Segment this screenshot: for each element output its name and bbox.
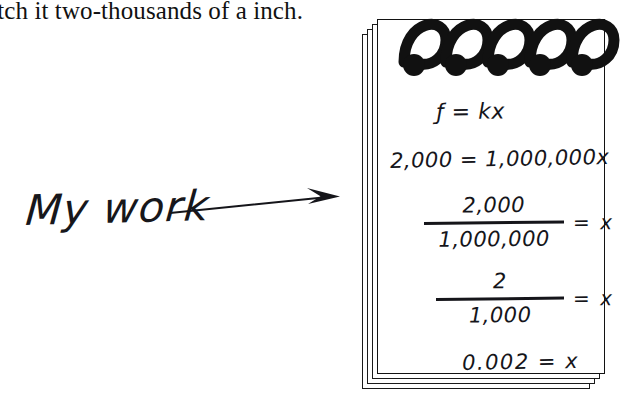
notepad: ƒ = kx 2,000 = 1,000,000x 2,000 1,000,00…: [358, 0, 626, 399]
fraction-bar: [436, 297, 564, 301]
worksheet-page: etch it two-thousands of a inch. My work…: [0, 0, 626, 399]
equation-substitute: 2,000 = 1,000,000x: [390, 145, 610, 173]
fraction-rhs: = x: [573, 208, 614, 234]
fraction-divide-2: 2 1,000 = x: [436, 267, 615, 329]
fraction-numerator: 2,000: [462, 192, 525, 219]
equation-formula: ƒ = kx: [436, 98, 505, 124]
fraction-rhs: = x: [573, 284, 614, 310]
equation-result: 0.002 = x: [462, 349, 579, 375]
arrow-right-icon: [168, 180, 353, 225]
fraction-divide-1: 2,000 1,000,000 = x: [424, 191, 615, 253]
fraction-numerator: 2: [493, 268, 507, 294]
fraction-denominator: 1,000,000: [438, 225, 550, 252]
fraction-denominator: 1,000: [469, 302, 532, 329]
pad-front-sheet: ƒ = kx 2,000 = 1,000,000x 2,000 1,000,00…: [377, 19, 605, 374]
printed-sentence: etch it two-thousands of a inch.: [0, 0, 386, 26]
fraction-bar: [424, 221, 564, 225]
